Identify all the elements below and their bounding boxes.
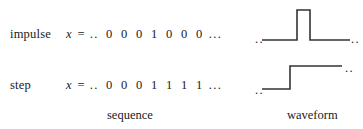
leading-ellipsis-step: .. [90, 78, 99, 93]
trailing-ellipsis-impulse: ... [209, 27, 223, 42]
digit: 1 [162, 78, 177, 93]
digit: 1 [192, 78, 207, 93]
digit: 0 [177, 27, 192, 42]
caption-sequence: sequence [107, 108, 153, 123]
digit: 0 [117, 27, 132, 42]
variable-x-step: x [66, 78, 72, 93]
digit-list-impulse: 0 0 0 1 0 0 0 [102, 27, 207, 42]
signal-figure: impulse x = .. 0 0 0 1 0 0 0 ... .. .. s… [0, 0, 363, 129]
digit: 1 [177, 78, 192, 93]
waveform-step [262, 62, 342, 94]
digit: 0 [102, 27, 117, 42]
sequence-impulse: x = .. 0 0 0 1 0 0 0 ... [66, 27, 222, 42]
digit: 1 [147, 27, 162, 42]
equals-sign-step: = [78, 78, 85, 93]
waveform-right-ellipsis-impulse: .. [351, 33, 360, 46]
caption-waveform: waveform [287, 108, 338, 123]
digit: 0 [132, 27, 147, 42]
waveform-impulse [262, 6, 350, 46]
equals-sign-impulse: = [78, 27, 85, 42]
variable-x-impulse: x [66, 27, 72, 42]
waveform-right-ellipsis-step: .. [345, 62, 354, 75]
row-label-impulse: impulse [10, 27, 51, 42]
trailing-ellipsis-step: ... [209, 78, 223, 93]
digit-list-step: 0 0 0 1 1 1 1 [102, 78, 207, 93]
digit: 0 [132, 78, 147, 93]
digit: 0 [117, 78, 132, 93]
digit: 0 [102, 78, 117, 93]
leading-ellipsis-impulse: .. [90, 27, 99, 42]
digit: 0 [192, 27, 207, 42]
digit: 0 [162, 27, 177, 42]
row-label-step: step [10, 78, 31, 93]
digit: 1 [147, 78, 162, 93]
sequence-step: x = .. 0 0 0 1 1 1 1 ... [66, 78, 222, 93]
